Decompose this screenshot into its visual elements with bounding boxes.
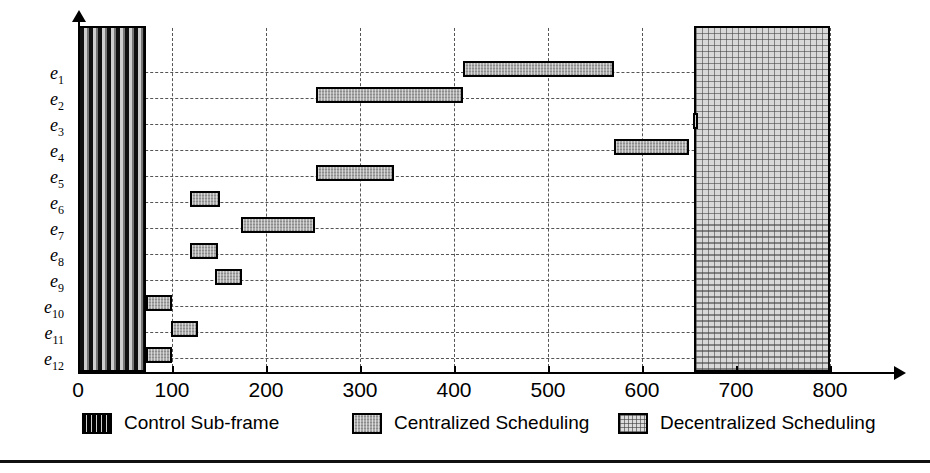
region-decentral: [694, 26, 830, 372]
region-control: [78, 26, 146, 372]
x-axis-tick-label-0: 0: [43, 378, 113, 402]
x-axis-tick-0: [78, 366, 80, 374]
y-axis-label-text: e12: [44, 349, 72, 369]
x-axis-tick-400: [454, 366, 456, 374]
x-axis-tick-label-700: 700: [701, 378, 771, 402]
task-bar-e4: [614, 139, 689, 155]
y-axis-label-e11: e11: [0, 323, 72, 348]
y-axis-label-text: e4: [50, 141, 72, 161]
y-axis-label-text: e2: [50, 89, 72, 109]
x-axis-tick-100: [172, 366, 174, 374]
legend-label-control: Control Sub-frame: [124, 412, 279, 434]
x-axis-tick-800: [830, 366, 832, 374]
y-axis-label-e4: e4: [0, 141, 72, 166]
y-axis-label-text: e10: [44, 297, 72, 317]
x-axis-tick-700: [736, 366, 738, 374]
task-bar-e5: [316, 165, 394, 181]
y-axis-label-text: e9: [50, 271, 72, 291]
task-bar-e3: [693, 113, 698, 129]
gridline-vertical-800: [830, 28, 831, 372]
x-axis-tick-label-400: 400: [419, 378, 489, 402]
x-axis-line: [78, 372, 896, 374]
chart-legend: Control Sub-frame Centralized Scheduling…: [0, 404, 930, 450]
x-axis-tick-200: [266, 366, 268, 374]
gridline-vertical-400: [454, 28, 455, 372]
legend-label-centralized: Centralized Scheduling: [394, 412, 589, 434]
x-axis-tick-600: [642, 366, 644, 374]
y-axis-label-e9: e9: [0, 271, 72, 296]
y-axis-label-text: e8: [50, 245, 72, 265]
legend-item-centralized-scheduling: Centralized Scheduling: [352, 412, 589, 434]
legend-item-decentralized-scheduling: Decentralized Scheduling: [618, 412, 875, 434]
gridline-vertical-600: [642, 28, 643, 372]
y-axis-label-text: e7: [50, 219, 72, 239]
task-bar-e10: [146, 295, 172, 311]
y-axis-label-e3: e3: [0, 115, 72, 140]
task-bar-e2: [316, 87, 464, 103]
y-axis-label-text: e1: [50, 63, 72, 83]
gridline-vertical-200: [266, 28, 267, 372]
y-axis-label-e5: e5: [0, 167, 72, 192]
task-bar-e12: [146, 347, 172, 363]
x-axis-tick-label-200: 200: [231, 378, 301, 402]
y-axis-label-text: e3: [50, 115, 72, 135]
y-axis-label-e8: e8: [0, 245, 72, 270]
gridline-vertical-300: [360, 28, 361, 372]
legend-item-control-sub-frame: Control Sub-frame: [82, 412, 279, 434]
x-axis-tick-label-100: 100: [137, 378, 207, 402]
y-axis-label-e2: e2: [0, 89, 72, 114]
task-bar-e7: [241, 217, 315, 233]
legend-label-decentralized: Decentralized Scheduling: [660, 412, 875, 434]
gridline-vertical-500: [548, 28, 549, 372]
y-axis-label-e10: e10: [0, 297, 72, 322]
x-axis-tick-label-600: 600: [607, 378, 677, 402]
y-axis-line: [78, 22, 80, 374]
x-axis-tick-label-500: 500: [513, 378, 583, 402]
gantt-chart-figure: e1e2e3e4e5e6e7e8e9e10e11e12 010020030040…: [0, 0, 930, 473]
task-bar-e8: [190, 243, 218, 259]
x-axis-tick-500: [548, 366, 550, 374]
x-axis-tick-label-800: 800: [795, 378, 865, 402]
x-axis-tick-label-300: 300: [325, 378, 395, 402]
y-axis-label-e1: e1: [0, 63, 72, 88]
y-axis-label-text: e11: [44, 323, 72, 343]
legend-swatch-decentralized-icon: [618, 413, 648, 434]
x-axis-arrow-icon: [894, 366, 906, 380]
task-bar-e1: [463, 61, 613, 77]
task-bar-e11: [171, 321, 198, 337]
y-axis-label-text: e6: [50, 193, 72, 213]
y-axis-label-text: e5: [50, 167, 72, 187]
y-axis-label-e6: e6: [0, 193, 72, 218]
legend-swatch-centralized-icon: [352, 413, 382, 434]
y-axis-label-e12: e12: [0, 349, 72, 374]
y-axis-arrow-icon: [72, 10, 86, 22]
x-axis-tick-300: [360, 366, 362, 374]
legend-swatch-control-icon: [82, 413, 112, 434]
bottom-divider-rule: [0, 460, 930, 463]
y-axis-label-e7: e7: [0, 219, 72, 244]
task-bar-e6: [190, 191, 220, 207]
task-bar-e9: [215, 269, 241, 285]
